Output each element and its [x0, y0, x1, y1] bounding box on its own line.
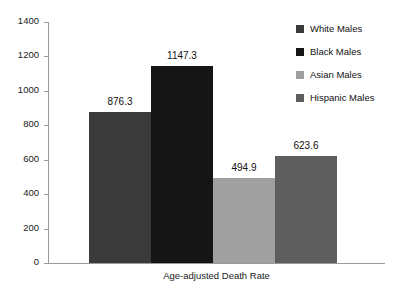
bar-value-label: 494.9: [213, 162, 275, 174]
legend-item[interactable]: White Males: [296, 17, 400, 40]
chart-legend: White MalesBlack MalesAsian MalesHispani…: [296, 17, 400, 109]
legend-item-label: Hispanic Males: [310, 92, 374, 103]
legend-swatch-icon: [296, 71, 304, 79]
x-axis-title: Age-adjusted Death Rate: [48, 270, 385, 282]
bar-value-label: 1147.3: [151, 50, 213, 62]
y-axis-tick-label: 0: [34, 256, 39, 267]
legend-swatch-icon: [296, 25, 304, 33]
legend-item-label: Asian Males: [310, 69, 362, 80]
bar[interactable]: [275, 156, 337, 263]
bar[interactable]: [151, 66, 213, 263]
legend-item-label: White Males: [310, 23, 362, 34]
bar[interactable]: [89, 112, 151, 263]
y-axis-tick-label: 800: [23, 118, 39, 129]
bar[interactable]: [213, 178, 275, 263]
y-axis-tick-label: 1000: [18, 84, 39, 95]
y-axis-tick-label: 200: [23, 222, 39, 233]
legend-item[interactable]: Asian Males: [296, 63, 400, 86]
x-axis-line: [48, 263, 385, 264]
legend-item-label: Black Males: [310, 46, 361, 57]
bar-chart: 0200400600800100012001400 876.31147.3494…: [0, 0, 402, 295]
y-axis-tick-label: 1200: [18, 49, 39, 60]
legend-item[interactable]: Black Males: [296, 40, 400, 63]
bar-value-label: 623.6: [275, 140, 337, 152]
y-axis-tick-mark: [44, 263, 49, 264]
y-axis-tick-label: 600: [23, 153, 39, 164]
legend-swatch-icon: [296, 94, 304, 102]
y-axis-tick-label: 1400: [18, 15, 39, 26]
bar-value-label: 876.3: [89, 96, 151, 108]
y-axis-tick-label: 400: [23, 187, 39, 198]
legend-swatch-icon: [296, 48, 304, 56]
legend-item[interactable]: Hispanic Males: [296, 86, 400, 109]
